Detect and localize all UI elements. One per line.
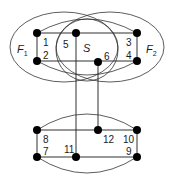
set-label-f2: F2 [146, 43, 157, 57]
node-label-6: 6 [104, 51, 110, 62]
node-label-8: 8 [43, 134, 49, 145]
node-2 [33, 57, 41, 65]
node-label-7: 7 [43, 146, 49, 157]
node-8 [33, 126, 41, 134]
edge-2-4-arc [37, 61, 137, 75]
set-label-s: S [83, 42, 91, 54]
node-7 [33, 153, 41, 161]
set-label-f1: F1 [17, 43, 28, 57]
node-label-9: 9 [126, 146, 132, 157]
node-label-11: 11 [64, 144, 75, 155]
node-label-1: 1 [43, 37, 49, 48]
graph-diagram: 1 2 3 4 5 6 7 8 9 10 11 12 F1 F2 S [0, 0, 176, 183]
node-label-4: 4 [126, 50, 132, 61]
node-3 [133, 29, 141, 37]
node-9 [133, 153, 141, 161]
node-5 [72, 29, 80, 37]
node-6 [94, 58, 102, 66]
node-label-10: 10 [123, 134, 135, 145]
node-label-12: 12 [103, 134, 115, 145]
node-12 [94, 126, 102, 134]
node-1 [33, 29, 41, 37]
edge-1-3-arc [37, 19, 137, 33]
node-label-3: 3 [126, 37, 132, 48]
node-4 [133, 57, 141, 65]
node-label-2: 2 [43, 50, 49, 61]
edge-8-10-arc [37, 114, 137, 130]
node-10 [133, 126, 141, 134]
edge-7-9-arc [37, 157, 137, 173]
node-label-5: 5 [63, 39, 69, 50]
